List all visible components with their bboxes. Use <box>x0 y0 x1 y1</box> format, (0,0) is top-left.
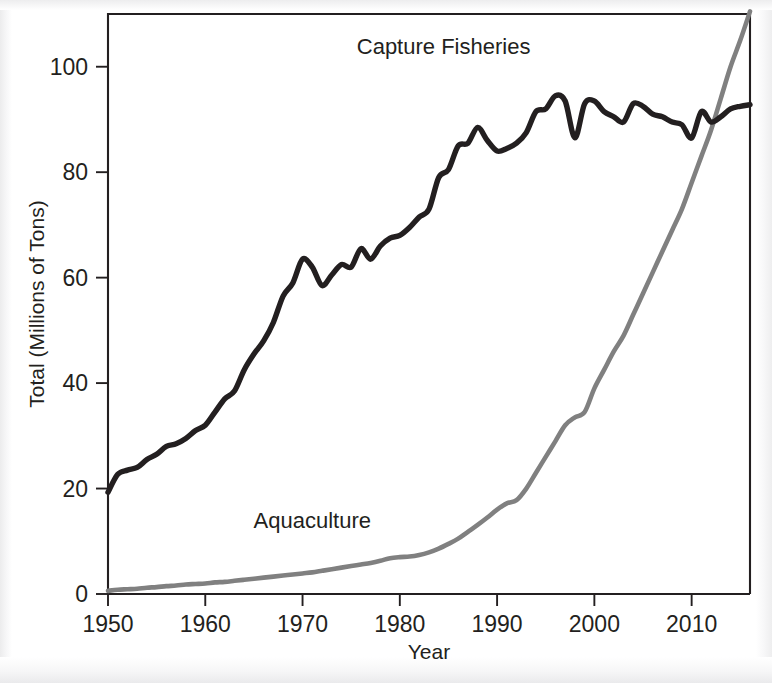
x-axis-title: Year <box>408 640 450 663</box>
figure-container: 020406080100 195019601970198019902000201… <box>0 0 772 683</box>
y-tick-label-40: 40 <box>62 370 88 396</box>
y-tick-label-20: 20 <box>62 476 88 502</box>
series-line-capture-fisheries <box>108 95 750 492</box>
annotation-capture-fisheries: Capture Fisheries <box>357 34 531 59</box>
plot-frame <box>108 14 750 594</box>
x-axis-tick-labels: 1950196019701980199020002010 <box>82 611 717 637</box>
y-tick-label-100: 100 <box>50 54 88 80</box>
x-tick-label-1980: 1980 <box>374 611 425 637</box>
annotation-aquaculture: Aquaculture <box>254 508 371 533</box>
y-tick-label-60: 60 <box>62 265 88 291</box>
x-tick-label-2010: 2010 <box>666 611 717 637</box>
line-chart: 020406080100 195019601970198019902000201… <box>0 0 772 683</box>
x-tick-label-1960: 1960 <box>180 611 231 637</box>
x-tick-label-1970: 1970 <box>277 611 328 637</box>
x-axis-ticks <box>108 594 692 606</box>
x-tick-label-2000: 2000 <box>569 611 620 637</box>
x-tick-label-1990: 1990 <box>472 611 523 637</box>
x-tick-label-1950: 1950 <box>82 611 133 637</box>
y-axis-ticks <box>96 67 108 594</box>
y-axis-tick-labels: 020406080100 <box>50 54 88 607</box>
y-tick-label-0: 0 <box>75 581 88 607</box>
data-series-group <box>108 11 750 590</box>
y-tick-label-80: 80 <box>62 159 88 185</box>
y-axis-title: Total (Millions of Tons) <box>25 200 48 407</box>
series-line-aquaculture <box>108 11 750 590</box>
